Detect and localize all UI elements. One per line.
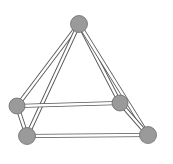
pyramid-svg [0,0,173,164]
edge-apex-front-right [79,24,148,135]
edge-back-left-back-right [17,103,120,106]
node-front-left [19,128,36,145]
edges-group [17,24,148,136]
pyramid-diagram [0,0,173,164]
node-back-right [112,95,128,111]
node-apex [71,16,88,33]
edge-front-left-front-right [27,135,148,136]
node-front-right [140,127,157,144]
node-back-left [9,98,25,114]
